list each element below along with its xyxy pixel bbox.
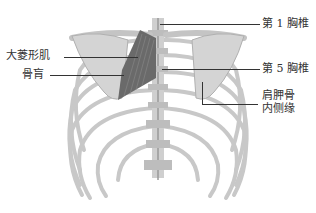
leader-rhomboid-major bbox=[64, 57, 138, 58]
leader-t1 bbox=[160, 24, 260, 25]
label-scapula-medial-border-2: 内侧缘 bbox=[262, 103, 295, 115]
label-bone: 骨肓 bbox=[22, 69, 44, 81]
label-rhomboid-major: 大菱形肌 bbox=[6, 50, 50, 62]
leader-scapula bbox=[202, 104, 258, 105]
leader-t5 bbox=[162, 69, 260, 70]
label-t5-vertebra: 第 5 胸椎 bbox=[262, 63, 309, 75]
label-t1-vertebra: 第 1 胸椎 bbox=[262, 18, 309, 30]
leader-scapula-vertical bbox=[202, 82, 203, 104]
label-scapula-medial-border-1: 肩胛骨 bbox=[262, 90, 295, 102]
leader-bone bbox=[50, 75, 124, 76]
